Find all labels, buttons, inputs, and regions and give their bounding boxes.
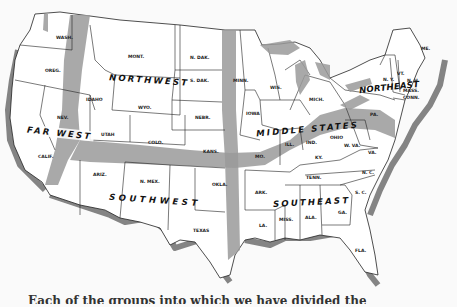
state-label-utah: UTAH [101,132,115,137]
state-label-mich: MICH. [309,97,324,102]
state-label-calif: CALIF. [38,154,53,159]
state-label-la: LA. [259,223,267,228]
state-label-wva: W. VA. [344,143,360,148]
us-regions-map [0,0,457,307]
state-label-tenn: TENN. [306,175,321,180]
state-label-me: ME. [421,46,430,51]
state-label-wis: WIS. [270,85,282,90]
state-label-idaho: IDAHO [86,97,102,102]
state-label-miss: MISS. [279,217,293,222]
state-label-sc: S. C. [355,190,367,195]
state-label-ky: KY. [315,155,323,160]
state-label-mo: MO. [255,154,265,159]
state-label-nmex: N. MEX. [140,179,160,184]
state-label-oreg: OREG. [45,68,61,73]
state-label-wash: WASH. [56,35,73,40]
state-label-mont: MONT. [128,54,144,59]
state-label-nev: NEV. [57,115,68,120]
state-label-kans: KANS. [203,149,219,154]
state-label-ind: IND. [306,140,317,145]
state-label-ala: ALA. [305,215,317,220]
state-label-wyo: WYO. [138,105,152,110]
state-label-conn: CONN. [403,95,419,100]
state-label-texas: TEXAS [193,228,209,233]
state-label-nebr: NEBR. [195,115,211,120]
state-label-pa: PA. [370,112,378,117]
state-label-ndak: N. DAK. [190,55,209,60]
state-label-sdak: S. DAK. [190,78,209,83]
state-label-minn: MINN. [233,78,248,83]
state-label-ill: ILL. [285,142,294,147]
state-label-va: VA. [368,150,376,155]
state-label-nc: N. C. [362,170,374,175]
state-label-fla: FLA. [355,248,366,253]
state-label-colo: COLO. [148,140,163,145]
state-label-okla: OKLA. [212,182,227,187]
state-label-ark: ARK. [255,190,267,195]
state-label-vt: VT. [397,71,405,76]
state-label-ariz: ARIZ. [93,172,107,177]
state-label-ga: GA. [338,210,347,215]
state-label-ohio: OHIO [330,135,343,140]
state-label-iowa: IOWA [246,111,260,116]
